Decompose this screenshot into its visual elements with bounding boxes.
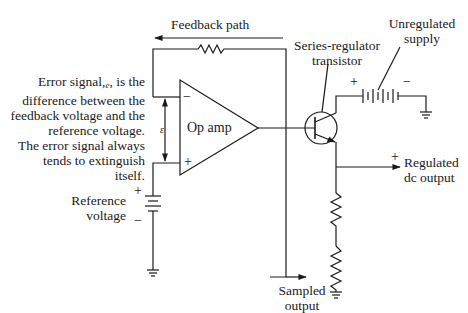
- opamp-minus-sign: −: [183, 90, 191, 104]
- ground-icon: [420, 112, 432, 118]
- feedback-wire-top: [153, 45, 286, 277]
- reference-battery: [145, 196, 161, 211]
- supply-plus-sign: +: [350, 75, 358, 89]
- divider-resistor: [331, 193, 341, 246]
- transistor-pointer: [322, 64, 328, 112]
- sampled-output-label: Sampled output: [270, 283, 334, 313]
- epsilon-label: ε: [160, 122, 164, 137]
- opamp-plus-sign: +: [184, 155, 192, 169]
- reference-minus-sign: −: [134, 214, 142, 228]
- reference-voltage-label: Reference voltage: [40, 193, 126, 223]
- unregulated-battery: [363, 89, 398, 103]
- collector-wire: [336, 96, 363, 113]
- op-amp-label: Op amp: [187, 120, 232, 135]
- error-signal-description: Error signal,e, is the difference betwee…: [0, 74, 145, 183]
- feedback-path-label: Feedback path: [171, 17, 249, 32]
- unregulated-supply-label: Unregulated supply: [376, 16, 468, 46]
- reference-plus-sign: +: [134, 184, 142, 198]
- regulated-output-label: Regulated dc output: [404, 155, 459, 185]
- output-plus-sign: +: [391, 150, 399, 164]
- plus-input-wire: [153, 163, 180, 196]
- supply-minus-sign: −: [403, 75, 411, 89]
- ground-icon: [147, 270, 159, 276]
